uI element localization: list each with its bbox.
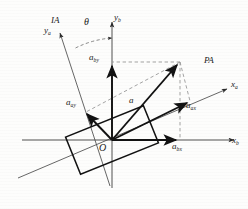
component-aax-arrow	[112, 103, 187, 140]
axis-xa-subscript: a	[235, 84, 238, 90]
label-component-aax: aax	[186, 101, 196, 110]
vector-decomposition-figure: IA ya θ yb aby PA xa a aay aax abx xb O	[0, 0, 248, 209]
comp-abx-subscript: bx	[177, 146, 182, 152]
comp-aay-letter: a	[66, 97, 71, 107]
label-axis-ya: ya	[44, 26, 51, 35]
angle-theta-arc	[76, 38, 113, 48]
axis-xb-subscript: b	[236, 140, 239, 146]
label-component-abx: abx	[172, 142, 182, 151]
comp-aby-letter: a	[89, 52, 94, 62]
label-vector-a: a	[129, 96, 134, 105]
dash-tip-to-xa	[180, 62, 190, 101]
axis-ya-line	[60, 33, 110, 186]
label-origin: O	[99, 143, 106, 153]
comp-aay-subscript: ay	[71, 102, 76, 108]
label-frame-ia: IA	[51, 16, 60, 25]
vector-a-arrow	[112, 65, 177, 140]
label-axis-xb: xb	[232, 136, 239, 145]
axis-yb-subscript: b	[118, 17, 121, 23]
comp-aax-subscript: ax	[191, 105, 196, 111]
label-component-aby: aby	[89, 53, 99, 62]
label-axis-xa: xa	[231, 80, 238, 89]
label-frame-pa: PA	[204, 56, 214, 65]
comp-aby-subscript: by	[94, 57, 99, 63]
diagram-canvas	[0, 0, 248, 209]
label-component-aay: aay	[66, 98, 76, 107]
comp-aax-letter: a	[186, 100, 191, 110]
label-axis-yb: yb	[114, 13, 121, 22]
axis-ya-subscript: a	[48, 30, 51, 36]
comp-abx-letter: a	[172, 141, 177, 151]
label-angle-theta: θ	[84, 17, 89, 27]
